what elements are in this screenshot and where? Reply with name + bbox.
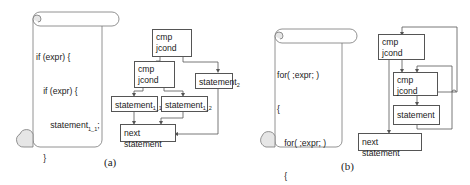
code-line: if (expr) {: [36, 86, 100, 97]
inner-cmp-jcond-box-b: cmp jcond: [393, 72, 438, 96]
statement-1-1-box: statement1_1: [111, 96, 158, 112]
code-listing-b: for( ;expr; ) { for( ;expr; ) { statemen…: [277, 48, 336, 185]
code-line: statement1_1;: [36, 120, 100, 131]
next-statement-box-b: next statement: [358, 133, 422, 151]
caption-a: (a): [104, 156, 116, 168]
code-line: }: [36, 153, 100, 164]
inner-cmp-jcond-box-a: cmp jcond: [134, 61, 175, 88]
code-line: {: [277, 104, 336, 115]
outer-cmp-jcond-box-b: cmp jcond: [378, 34, 425, 60]
statement-2-box: statement2: [195, 73, 233, 89]
statement-1-2-box: statement1_2: [161, 96, 208, 112]
code-line: {: [277, 171, 336, 182]
statement-box-b: statement: [393, 105, 440, 125]
next-statement-box-a: next statement: [120, 124, 176, 142]
caption-b: (b): [341, 160, 354, 172]
code-line: for( ;expr; ): [277, 138, 336, 149]
code-line: if (expr) {: [36, 52, 100, 63]
code-listing-a: if (expr) { if (expr) { statement1_1; } …: [36, 30, 100, 185]
outer-cmp-jcond-box-a: cmp jcond: [152, 29, 192, 57]
code-line: for( ;expr; ): [277, 70, 336, 81]
